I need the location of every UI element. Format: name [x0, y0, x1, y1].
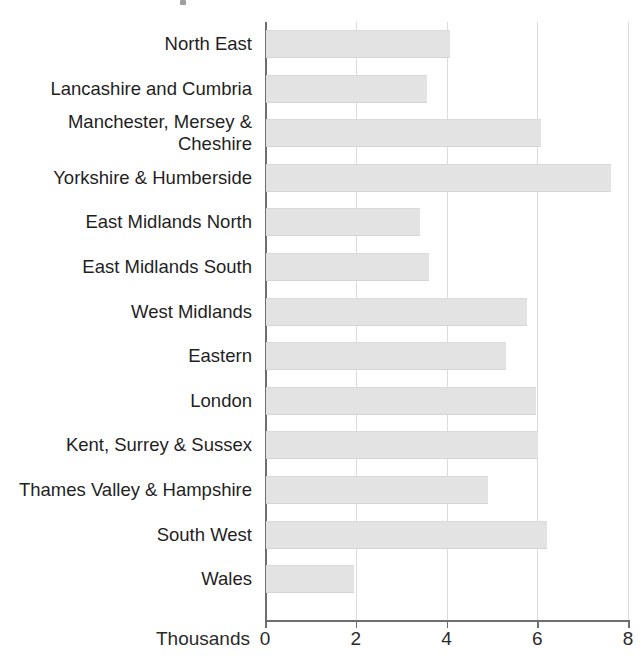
category-label: Lancashire and Cumbria [7, 78, 252, 100]
bar-row: Wales [0, 565, 644, 593]
bar [266, 164, 611, 192]
bar-row: Manchester, Mersey & Cheshire [0, 119, 644, 147]
category-label: East Midlands South [7, 256, 252, 278]
x-axis-label: Thousands [156, 628, 250, 650]
bar-row: Lancashire and Cumbria [0, 75, 644, 103]
x-tick-0 [265, 620, 267, 628]
x-tick-6 [537, 620, 539, 628]
bar [266, 521, 547, 549]
bar [266, 298, 527, 326]
category-label: West Midlands [7, 301, 252, 323]
bar [266, 431, 538, 459]
bar-chart: 02468 Thousands North EastLancashire and… [0, 0, 644, 662]
category-label: Yorkshire & Humberside [7, 167, 252, 189]
bar [266, 119, 541, 147]
bar-row: London [0, 387, 644, 415]
x-tick-4 [447, 620, 449, 628]
bar-row: North East [0, 30, 644, 58]
cropped-title-mark [180, 0, 186, 5]
bar-row: East Midlands South [0, 253, 644, 281]
category-label: Eastern [7, 345, 252, 367]
category-label: East Midlands North [7, 211, 252, 233]
x-tick-8 [628, 620, 630, 628]
bar [266, 342, 506, 370]
category-label: North East [7, 33, 252, 55]
bar-row: Thames Valley & Hampshire [0, 476, 644, 504]
bar [266, 387, 536, 415]
x-tick-label-6: 6 [532, 628, 543, 650]
bar [266, 75, 427, 103]
bar-row: Yorkshire & Humberside [0, 164, 644, 192]
category-label: Manchester, Mersey & Cheshire [7, 111, 252, 155]
category-label: Thames Valley & Hampshire [7, 479, 252, 501]
bar-row: East Midlands North [0, 208, 644, 236]
x-tick-label-8: 8 [623, 628, 634, 650]
bar [266, 208, 420, 236]
category-label: London [7, 390, 252, 412]
bar [266, 565, 354, 593]
category-label: Wales [7, 568, 252, 590]
category-label: South West [7, 524, 252, 546]
x-tick-label-0: 0 [260, 628, 271, 650]
bar-row: Kent, Surrey & Sussex [0, 431, 644, 459]
bar-row: West Midlands [0, 298, 644, 326]
bar [266, 253, 429, 281]
bar-row: Eastern [0, 342, 644, 370]
x-tick-label-2: 2 [350, 628, 361, 650]
x-tick-2 [356, 620, 358, 628]
bar [266, 476, 488, 504]
category-label: Kent, Surrey & Sussex [7, 434, 252, 456]
bar-row: South West [0, 521, 644, 549]
x-tick-label-4: 4 [441, 628, 452, 650]
bar [266, 30, 450, 58]
